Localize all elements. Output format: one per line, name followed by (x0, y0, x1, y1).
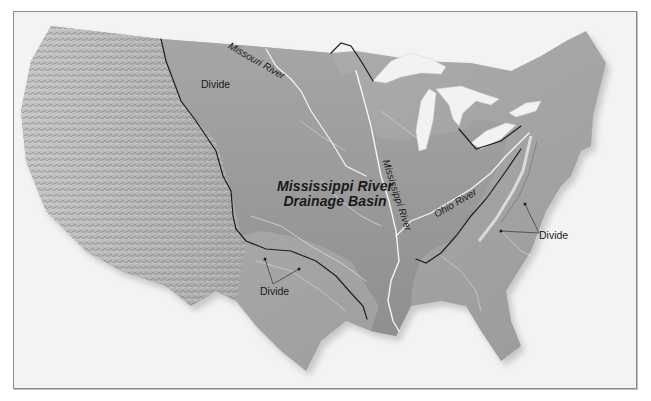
divide-label-south: Divide (260, 285, 289, 297)
divide-label-north: Divide (201, 78, 230, 90)
basin-label-line1: Mississippi River (277, 179, 393, 194)
basin-label: Mississippi River Drainage Basin (277, 179, 393, 209)
basin-label-line2: Drainage Basin (277, 194, 393, 209)
map-frame: Mississippi River Drainage Basin Missour… (13, 11, 637, 389)
divide-label-east: Divide (539, 229, 568, 241)
